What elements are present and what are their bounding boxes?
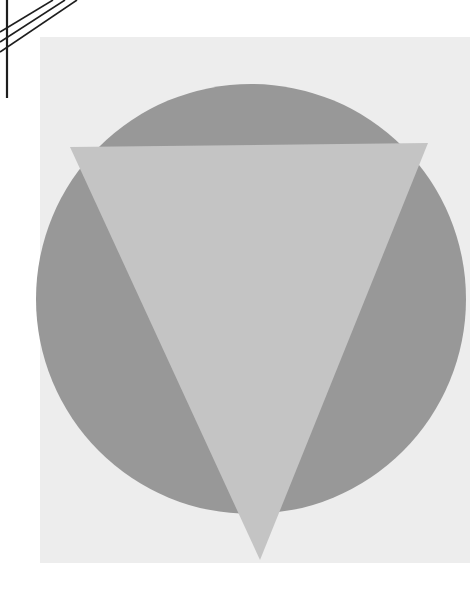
artwork-canvas: [0, 0, 475, 598]
